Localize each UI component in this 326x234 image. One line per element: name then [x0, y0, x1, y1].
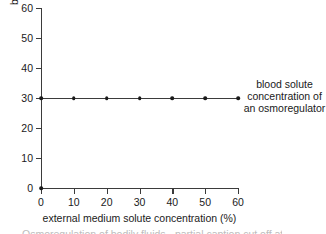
data-point: [236, 96, 240, 100]
x-axis-title: external medium solute concentration (%): [41, 212, 238, 224]
y-tick-label-0: 0: [27, 183, 33, 194]
data-point: [203, 96, 207, 100]
legend-line-3: an osmoregulator: [243, 103, 326, 115]
origin-point: [39, 186, 43, 190]
y-tick-label-50: 50: [21, 33, 33, 44]
x-tick-40: [172, 189, 173, 194]
y-axis-title-container: blood solute concentration (%): [8, 8, 22, 188]
x-tick-50: [205, 189, 206, 194]
x-tick-label-60: 60: [232, 197, 244, 208]
y-tick-label-30: 30: [21, 93, 33, 104]
data-point: [72, 96, 76, 100]
x-tick-label-0: 0: [38, 197, 44, 208]
y-tick-label-10: 10: [21, 153, 33, 164]
y-tick-60: [36, 8, 41, 9]
data-point: [138, 96, 142, 100]
x-tick-label-10: 10: [68, 197, 80, 208]
legend-line-2: concentration of: [243, 91, 326, 103]
data-point: [105, 96, 109, 100]
y-tick-label-20: 20: [21, 123, 33, 134]
y-axis-title: blood solute concentration (%): [7, 0, 21, 24]
x-tick-label-20: 20: [101, 197, 113, 208]
y-tick-label-60: 60: [21, 3, 33, 14]
cropped-caption-text: Osmoregulation of bodily fluids - partia…: [22, 228, 282, 234]
x-tick-label-50: 50: [199, 197, 211, 208]
y-tick-10: [36, 158, 41, 159]
x-tick-label-40: 40: [166, 197, 178, 208]
y-tick-label-40: 40: [21, 63, 33, 74]
data-point: [39, 96, 43, 100]
x-tick-label-30: 30: [134, 197, 146, 208]
data-point: [171, 96, 175, 100]
x-tick-30: [140, 189, 141, 194]
x-tick-60: [238, 189, 239, 194]
x-tick-20: [107, 189, 108, 194]
plot-area: 60 50 40 30 20 10 0 0 10 20 30 40 50 60: [41, 8, 238, 188]
y-tick-20: [36, 128, 41, 129]
x-tick-10: [74, 189, 75, 194]
chart-figure: blood solute concentration (%) 60 50 40 …: [0, 0, 326, 234]
series-annotation-osmoregulator: blood solute concentration of an osmoreg…: [243, 79, 326, 114]
y-tick-50: [36, 38, 41, 39]
y-tick-40: [36, 68, 41, 69]
